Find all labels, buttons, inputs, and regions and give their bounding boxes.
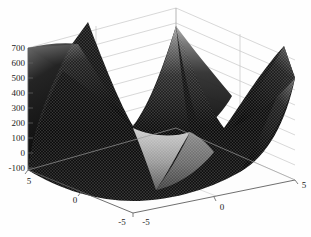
z-tick-label: 100 (12, 133, 26, 143)
z-tick-label: 500 (12, 73, 26, 83)
z-tick-label: 300 (12, 103, 26, 113)
z-tick-label: 0 (21, 148, 26, 158)
x-tick-label: 5 (27, 176, 32, 186)
z-tick-label: 700 (12, 43, 26, 53)
y-tick-label: 0 (220, 202, 225, 212)
y-tick-label: 5 (302, 180, 307, 190)
z-tick-label: 600 (12, 58, 26, 68)
y-tick-label: -5 (142, 217, 150, 227)
x-tick-label: -5 (118, 217, 126, 227)
z-tick-label: 200 (12, 118, 26, 128)
z-tick-label: 400 (12, 88, 26, 98)
plot-canvas: 700 600 500 400 300 200 100 0 -100 5 0 -… (0, 0, 311, 237)
z-tick-label: -100 (9, 163, 26, 173)
x-tick-label: 0 (73, 195, 78, 205)
surface-plot-figure: 700 600 500 400 300 200 100 0 -100 5 0 -… (0, 0, 311, 237)
